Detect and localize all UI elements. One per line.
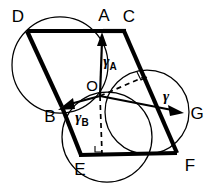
vector-gamma-a-arrowhead: [97, 32, 107, 46]
geometry-figure: D A C B G E F O γA γB γ: [0, 0, 213, 183]
vertex-label-D: D: [12, 7, 24, 26]
vertex-label-C: C: [123, 7, 135, 26]
vertex-label-A: A: [98, 6, 110, 25]
origin-label-O: O: [86, 77, 98, 94]
vertex-label-F: F: [185, 156, 195, 175]
vertex-label-B: B: [44, 107, 55, 126]
vector-gamma-shaft: [100, 96, 172, 110]
edge-E-F: [79, 153, 177, 155]
vector-label-gamma-a-subscript: A: [110, 61, 117, 72]
vector-label-gamma-symbol: γ: [163, 88, 170, 104]
vector-label-gamma-a: γA: [103, 53, 116, 71]
dashed-O-to-EF-foot: [100, 96, 102, 154]
vector-label-gamma-b-subscript: B: [82, 117, 89, 128]
dashed-O-to-CF-foot: [100, 77, 144, 96]
vector-gamma-arrowhead: [168, 105, 184, 116]
vector-label-gamma: γ: [163, 88, 170, 104]
diagram-canvas: D A C B G E F O γA γB γ: [0, 0, 213, 183]
vertex-label-G: G: [190, 104, 203, 123]
edge-D-B: [27, 31, 62, 107]
vertex-label-E: E: [74, 160, 85, 179]
right-angle-mark-EF: [95, 146, 102, 152]
vector-label-gamma-b: γB: [75, 109, 88, 127]
